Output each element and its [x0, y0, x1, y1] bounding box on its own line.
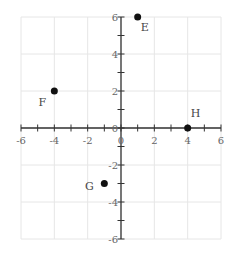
y-tick-label: -6: [108, 234, 118, 245]
data-points: EFGH: [39, 14, 201, 193]
point-label-e: E: [141, 21, 149, 34]
point-g: [101, 180, 108, 187]
point-label-f: F: [39, 96, 47, 109]
x-tick-label: -2: [83, 135, 93, 146]
coordinate-plane: -6-4-202466420-2-4-6 EFGH: [0, 0, 236, 254]
y-tick-label: 2: [112, 86, 118, 97]
point-label-g: G: [85, 180, 94, 193]
y-tick-label: 0: [112, 123, 118, 134]
y-tick-label: -4: [108, 197, 118, 208]
x-tick-label: 4: [184, 135, 190, 146]
x-tick-label: 2: [151, 135, 157, 146]
x-tick-label: 0: [118, 135, 124, 146]
y-tick-label: -2: [108, 160, 118, 171]
x-tick-label: 6: [218, 135, 224, 146]
point-f: [51, 88, 58, 95]
x-tick-label: -6: [16, 135, 26, 146]
point-label-h: H: [191, 107, 201, 120]
y-tick-label: 4: [112, 49, 118, 60]
point-h: [184, 125, 191, 132]
x-tick-label: -4: [49, 135, 59, 146]
y-tick-label: 6: [112, 12, 118, 23]
point-e: [134, 14, 141, 21]
